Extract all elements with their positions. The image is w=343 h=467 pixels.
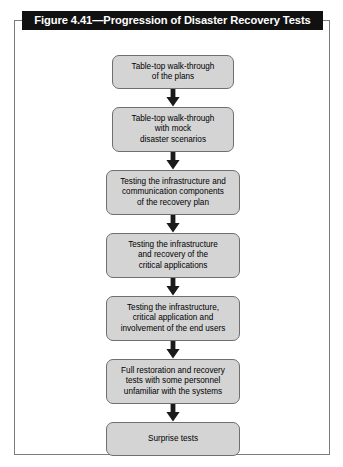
flow-step-label: Testing the infrastructureand recovery o… [128, 240, 218, 271]
page-title: Figure 4.41—Progression of Disaster Reco… [34, 15, 310, 26]
down-arrow-icon [164, 278, 182, 296]
flow-step-label: Testing the infrastructure,critical appl… [121, 303, 226, 334]
down-arrow-icon [164, 341, 182, 359]
flow-step-label: Table-top walk-throughof the plans [132, 62, 215, 83]
flow-step-label: Table-top walk-throughwith mockdisaster … [132, 114, 215, 145]
flow-step-4: Testing the infrastructureand recovery o… [106, 233, 240, 278]
figure-title-bar: Figure 4.41—Progression of Disaster Reco… [22, 11, 323, 30]
flow-step-label: Full restoration and recoverytests with … [121, 366, 225, 397]
flow-step-6: Full restoration and recoverytests with … [106, 359, 240, 404]
flow-step-label: Testing the infrastructure andcommunicat… [120, 177, 226, 208]
flow-step-label: Surprise tests [148, 434, 198, 444]
flow-step-1: Table-top walk-throughof the plans [112, 55, 234, 89]
flowchart: Table-top walk-throughof the plansTable-… [15, 55, 331, 456]
flow-step-3: Testing the infrastructure andcommunicat… [106, 170, 240, 215]
figure-frame: Table-top walk-throughof the plansTable-… [14, 20, 330, 455]
flow-step-2: Table-top walk-throughwith mockdisaster … [112, 107, 234, 152]
down-arrow-icon [164, 152, 182, 170]
flow-step-5: Testing the infrastructure,critical appl… [106, 296, 240, 341]
flow-step-7: Surprise tests [106, 422, 240, 456]
down-arrow-icon [164, 215, 182, 233]
down-arrow-icon [164, 89, 182, 107]
down-arrow-icon [164, 404, 182, 422]
figure-container: Table-top walk-throughof the plansTable-… [0, 0, 343, 467]
